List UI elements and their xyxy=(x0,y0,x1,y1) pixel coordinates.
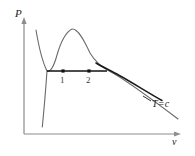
axis-group xyxy=(21,17,181,137)
plot-canvas xyxy=(0,0,195,156)
y-axis-label: P xyxy=(15,8,22,19)
pv-diagram-figure: P v 1 2 T=c xyxy=(0,0,195,156)
y-axis-arrowhead xyxy=(21,17,26,24)
point-1-label: 1 xyxy=(60,76,65,85)
isotherm-tc-curve xyxy=(96,63,162,101)
point-2-label: 2 xyxy=(86,76,91,85)
vdw-lower-branch xyxy=(42,71,47,127)
x-axis-label: v xyxy=(172,137,176,147)
point-2-marker xyxy=(87,69,90,72)
isotherm-tc-label: T=c xyxy=(152,99,169,109)
point-1-marker xyxy=(61,69,64,72)
